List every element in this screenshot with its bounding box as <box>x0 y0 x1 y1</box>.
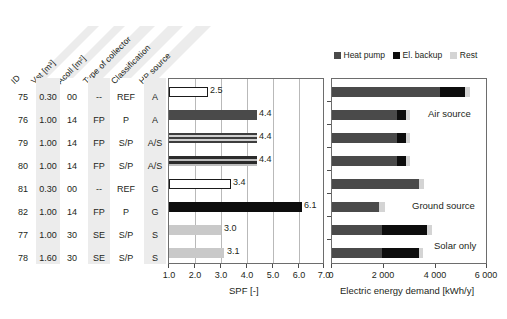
spf-bar-80 <box>169 156 257 166</box>
energy-xtick-label: 6 000 <box>471 270 501 280</box>
spf-tick <box>194 264 195 268</box>
chart-legend: Heat pump El. backup Rest <box>334 50 481 60</box>
spf-gridline <box>273 79 274 263</box>
energy-bar-79 <box>332 133 488 143</box>
table-cell-hpsource: S <box>144 230 166 240</box>
spf-gridline <box>299 79 300 263</box>
table-cell-classification: S/P <box>112 161 140 171</box>
table-cell-classification: REF <box>112 184 140 194</box>
spf-value-label-76: 4.4 <box>259 108 272 118</box>
table-cell-vst: 1.00 <box>33 207 63 217</box>
annotation-air-source: Air source <box>428 108 471 119</box>
table-cell-hpsource: A <box>144 92 166 102</box>
annotation-ground-source: Ground source <box>412 200 475 211</box>
legend-label-rest: Rest <box>460 50 477 60</box>
energy-ytick <box>327 239 331 240</box>
table-cell-classification: P <box>112 207 140 217</box>
energy-seg-el-backup <box>397 156 406 166</box>
legend-item-rest: Rest <box>450 50 477 60</box>
spf-xtick-label: 4.0 <box>238 270 256 280</box>
spf-xtick-label: 3.0 <box>212 270 230 280</box>
table-cell-collector: FP <box>88 161 110 171</box>
figure-root: ID Vst [m³] Acoll [m²] Type of collector… <box>0 0 507 319</box>
spf-tick <box>246 264 247 268</box>
table-cell-id: 81 <box>14 184 32 194</box>
legend-label-heat-pump: Heat pump <box>344 50 386 60</box>
legend-label-el-backup: El. backup <box>403 50 443 60</box>
energy-seg-rest <box>406 110 411 120</box>
table-cell-collector: -- <box>88 92 110 102</box>
spf-xtick-label: 5.0 <box>264 270 282 280</box>
table-cell-vst: 0.30 <box>33 92 63 102</box>
spf-tick <box>220 264 221 268</box>
spf-bar-75 <box>169 87 208 97</box>
spf-bar-82 <box>169 202 302 212</box>
table-cell-vst: 1.00 <box>33 230 63 240</box>
table-cell-hpsource: G <box>144 184 166 194</box>
table-cell-id: 77 <box>14 230 32 240</box>
table-cell-collector: SE <box>88 253 110 263</box>
energy-seg-el-backup <box>397 133 406 143</box>
table-cell-id: 80 <box>14 161 32 171</box>
spf-tick <box>168 264 169 268</box>
table-cell-classification: S/P <box>112 230 140 240</box>
table-cell-vst: 1.00 <box>33 161 63 171</box>
spf-value-label-77: 3.0 <box>224 223 237 233</box>
energy-tick <box>331 264 332 268</box>
energy-ytick <box>327 216 331 217</box>
spf-bar-76 <box>169 110 257 120</box>
legend-swatch-rest-icon <box>450 52 457 59</box>
spf-bar-81 <box>169 179 231 189</box>
energy-seg-rest <box>427 225 432 235</box>
energy-seg-heat-pump <box>332 225 382 235</box>
spf-chart-plot-area <box>168 78 324 264</box>
table-cell-vst: 1.00 <box>33 138 63 148</box>
table-cell-id: 78 <box>14 253 32 263</box>
energy-seg-rest <box>419 179 425 189</box>
table-cell-id: 76 <box>14 115 32 125</box>
energy-ytick <box>327 124 331 125</box>
energy-ytick <box>327 170 331 171</box>
table-cell-collector: FP <box>88 207 110 217</box>
energy-tick <box>383 264 384 268</box>
energy-seg-heat-pump <box>332 202 379 212</box>
spf-xtick-label: 1.0 <box>160 270 178 280</box>
legend-item-el-backup: El. backup <box>393 50 442 60</box>
table-cell-hpsource: A/S <box>144 161 166 171</box>
energy-chart-plot-area <box>331 78 487 264</box>
spf-tick <box>272 264 273 268</box>
table-cell-collector: -- <box>88 184 110 194</box>
energy-seg-heat-pump <box>332 87 440 97</box>
spf-value-label-82: 6.1 <box>304 200 317 210</box>
energy-bar-80 <box>332 156 488 166</box>
table-cell-classification: S/P <box>112 138 140 148</box>
table-cell-classification: P <box>112 115 140 125</box>
energy-seg-heat-pump <box>332 179 419 189</box>
energy-seg-el-backup <box>440 87 466 97</box>
table-cell-acoll: 14 <box>62 161 82 171</box>
energy-seg-rest <box>406 156 411 166</box>
energy-seg-rest <box>419 248 424 258</box>
table-cell-acoll: 30 <box>62 230 82 240</box>
spf-bar-77 <box>169 225 221 235</box>
spf-xtick-label: 6.0 <box>290 270 308 280</box>
energy-xtick-label: 0 <box>323 270 339 280</box>
table-cell-id: 82 <box>14 207 32 217</box>
table-cell-vst: 0.30 <box>33 184 63 194</box>
energy-seg-rest <box>465 87 469 97</box>
table-cell-acoll: 14 <box>62 138 82 148</box>
energy-xtick-label: 4 000 <box>420 270 450 280</box>
header-label-id: ID <box>9 73 22 86</box>
table-cell-acoll: 14 <box>62 207 82 217</box>
legend-swatch-el-backup-icon <box>393 52 400 59</box>
table-cell-hpsource: G <box>144 207 166 217</box>
table-cell-acoll: 00 <box>62 92 82 102</box>
table-cell-id: 79 <box>14 138 32 148</box>
table-cell-classification: S/P <box>112 253 140 263</box>
table-cell-hpsource: A <box>144 115 166 125</box>
energy-seg-el-backup <box>397 110 406 120</box>
energy-bar-75 <box>332 87 488 97</box>
legend-swatch-heat-pump-icon <box>334 52 341 59</box>
table-cell-acoll: 00 <box>62 184 82 194</box>
table-cell-hpsource: A/S <box>144 138 166 148</box>
